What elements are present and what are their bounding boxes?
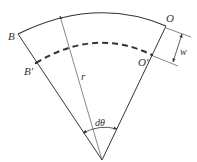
label-O-prime: O′	[138, 56, 149, 68]
dtheta-arc	[83, 127, 117, 133]
r-arrow	[60, 16, 102, 160]
right-radius-line	[102, 26, 166, 160]
dashed-arc	[36, 43, 152, 63]
sector-diagram: B B′ O O′ r dθ w	[0, 0, 197, 162]
label-w: w	[180, 46, 187, 57]
left-radius-line	[18, 34, 102, 160]
label-B-prime: B′	[24, 65, 34, 77]
label-r: r	[81, 70, 86, 82]
w-extension-top	[166, 28, 191, 37]
label-O: O	[166, 12, 174, 24]
outer-arc	[18, 13, 166, 34]
label-B: B	[8, 30, 15, 42]
label-dtheta: dθ	[95, 117, 105, 128]
